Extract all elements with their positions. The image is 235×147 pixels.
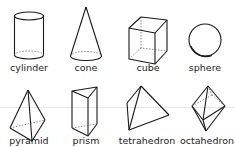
cone-figure	[71, 7, 102, 61]
cone-label: cone	[56, 62, 116, 73]
tetrahedron-figure	[127, 86, 169, 130]
cylinder-figure	[15, 12, 44, 59]
cube-label: cube	[118, 62, 178, 73]
shapes-diagram	[0, 0, 235, 147]
tetrahedron-label: tetrahedron	[117, 135, 177, 146]
octahedron-figure	[192, 86, 225, 131]
prism-figure	[72, 87, 97, 136]
cube-figure	[129, 17, 167, 64]
pyramid-figure	[10, 90, 45, 141]
octahedron-label: octahedron	[177, 135, 235, 146]
sphere-figure	[189, 24, 221, 57]
pyramid-label: pyramid	[0, 135, 59, 146]
cylinder-label: cylinder	[0, 62, 59, 73]
sphere-label: sphere	[175, 62, 235, 73]
prism-label: prism	[56, 135, 116, 146]
